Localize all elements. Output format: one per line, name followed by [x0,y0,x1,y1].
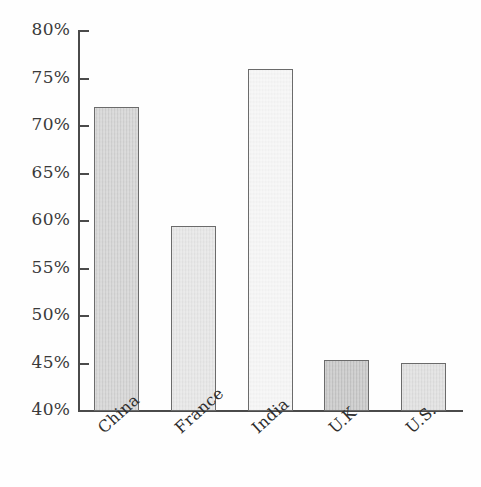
bar-texture [172,227,215,410]
bar-china [94,107,139,411]
bar-texture [249,70,292,410]
y-tick-label-70: 70% [16,114,70,134]
bar-chart: 80% 75% 70% 65% 60% 55% 50% 45% 40% Chin… [0,0,481,487]
bar-texture [95,108,138,410]
y-axis-tick-labels: 80% 75% 70% 65% 60% 55% 50% 45% 40% [12,0,70,487]
y-tick-label-75: 75% [16,67,70,87]
y-tick-label-45: 45% [16,352,70,372]
y-tick-label-40: 40% [16,399,70,419]
y-tick-label-55: 55% [16,257,70,277]
y-axis-line [78,30,80,412]
y-tick-label-80: 80% [16,19,70,39]
bar-france [171,226,216,411]
y-tick-label-60: 60% [16,209,70,229]
y-tick-label-65: 65% [16,162,70,182]
bar-india [248,69,293,411]
y-tick-label-50: 50% [16,304,70,324]
